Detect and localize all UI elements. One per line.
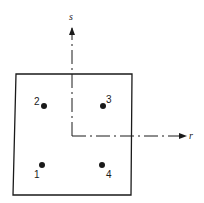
r-axis-label: r — [189, 130, 193, 141]
point-1: 1 — [34, 162, 45, 180]
point-4-label: 4 — [106, 169, 112, 180]
point-2-dot — [41, 103, 47, 109]
point-4: 4 — [99, 162, 112, 180]
element-diagram: s r 2 3 1 4 — [0, 0, 204, 203]
point-1-label: 1 — [34, 169, 40, 180]
point-3: 3 — [100, 94, 112, 109]
s-axis-label: s — [69, 11, 73, 22]
point-4-dot — [99, 162, 105, 168]
point-2-label: 2 — [34, 96, 40, 107]
point-1-dot — [39, 162, 45, 168]
point-2: 2 — [34, 96, 47, 109]
point-3-label: 3 — [106, 94, 112, 105]
